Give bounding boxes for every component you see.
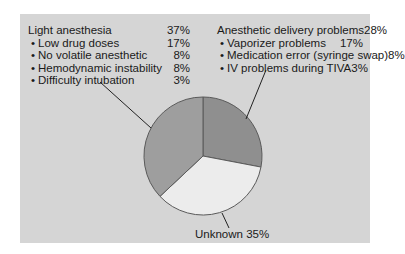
leader-line-right	[246, 70, 266, 119]
unknown-label: Unknown 35%	[195, 228, 269, 240]
leader-line-bottom	[222, 213, 229, 228]
pie-slice	[203, 97, 262, 167]
pie-slices	[144, 97, 262, 215]
leader-line-left	[100, 82, 151, 128]
